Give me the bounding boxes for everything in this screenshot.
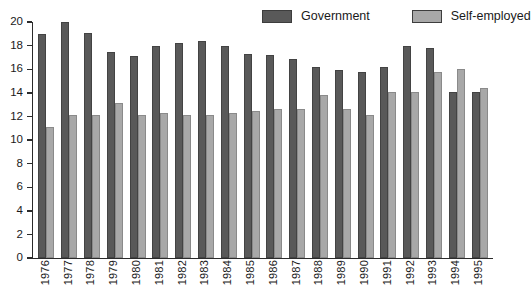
x-axis-tick: 1981 bbox=[148, 260, 171, 300]
bar-government bbox=[289, 59, 297, 258]
x-axis-tick: 1991 bbox=[376, 260, 399, 300]
bar-self-employed bbox=[480, 88, 488, 258]
bar-government bbox=[449, 92, 457, 258]
bar-self-employed bbox=[92, 115, 100, 258]
x-axis-tick-label: 1993 bbox=[427, 260, 438, 285]
x-axis-tick: 1984 bbox=[216, 260, 239, 300]
bar-government bbox=[403, 46, 411, 258]
bar-self-employed bbox=[206, 115, 214, 258]
y-axis-tick-label: 6 bbox=[17, 181, 27, 193]
x-axis-tick: 1987 bbox=[285, 260, 308, 300]
x-axis-tick-label: 1979 bbox=[108, 260, 119, 285]
x-axis: 1976197719781979198019811982198319841985… bbox=[32, 260, 492, 300]
bar-self-employed bbox=[411, 92, 419, 258]
y-axis: 02468101214161820 bbox=[0, 22, 32, 258]
y-axis-tick-label: 10 bbox=[10, 134, 27, 146]
legend-label-self-employed: Self-employed bbox=[451, 10, 531, 23]
y-axis-tick-label: 14 bbox=[10, 87, 27, 99]
x-axis-tick-label: 1992 bbox=[405, 260, 416, 285]
bar-government bbox=[244, 54, 252, 258]
bar-group bbox=[263, 22, 286, 258]
x-axis-tick-label: 1983 bbox=[199, 260, 210, 285]
bar-group bbox=[217, 22, 240, 258]
legend-label-government: Government bbox=[301, 10, 370, 23]
x-axis-tick: 1976 bbox=[34, 260, 57, 300]
bar-group bbox=[195, 22, 218, 258]
bar-self-employed bbox=[46, 127, 54, 258]
bar-government bbox=[61, 22, 69, 258]
bar-government bbox=[38, 34, 46, 258]
bar-group bbox=[423, 22, 446, 258]
x-axis-tick: 1993 bbox=[422, 260, 445, 300]
bar-government bbox=[84, 33, 92, 258]
x-axis-tick-label: 1995 bbox=[473, 260, 484, 285]
x-axis-tick-label: 1977 bbox=[63, 260, 74, 285]
x-axis-tick-label: 1985 bbox=[245, 260, 256, 285]
x-axis-tick-label: 1976 bbox=[40, 260, 51, 285]
legend-item-government: Government bbox=[262, 10, 370, 23]
bar-group bbox=[58, 22, 81, 258]
bar-government bbox=[266, 55, 274, 258]
bar-government bbox=[152, 46, 160, 258]
bar-government bbox=[107, 52, 115, 259]
bar-group bbox=[35, 22, 58, 258]
bar-group bbox=[286, 22, 309, 258]
bar-group bbox=[400, 22, 423, 258]
y-axis-tick-label: 4 bbox=[17, 205, 27, 217]
bar-government bbox=[198, 41, 206, 258]
bar-group bbox=[240, 22, 263, 258]
x-axis-tick-label: 1988 bbox=[313, 260, 324, 285]
bar-self-employed bbox=[343, 109, 351, 258]
x-axis-tick-label: 1987 bbox=[291, 260, 302, 285]
y-axis-tick-label: 2 bbox=[17, 228, 27, 240]
x-axis-tick: 1988 bbox=[308, 260, 331, 300]
bar-group bbox=[81, 22, 104, 258]
x-axis-tick-label: 1990 bbox=[359, 260, 370, 285]
x-axis-tick: 1978 bbox=[80, 260, 103, 300]
x-axis-tick-label: 1981 bbox=[154, 260, 165, 285]
bar-government bbox=[175, 43, 183, 258]
x-axis-tick: 1979 bbox=[102, 260, 125, 300]
y-axis-tick-label: 20 bbox=[10, 16, 27, 28]
x-axis-tick-label: 1982 bbox=[177, 260, 188, 285]
x-axis-tick-label: 1980 bbox=[131, 260, 142, 285]
x-axis-tick: 1977 bbox=[57, 260, 80, 300]
bar-group bbox=[445, 22, 468, 258]
bar-self-employed bbox=[229, 113, 237, 258]
bar-group bbox=[103, 22, 126, 258]
bar-self-employed bbox=[366, 115, 374, 258]
plot-area bbox=[32, 22, 493, 259]
bar-group bbox=[468, 22, 491, 258]
x-axis-tick: 1986 bbox=[262, 260, 285, 300]
x-axis-tick-label: 1994 bbox=[450, 260, 461, 285]
bar-self-employed bbox=[320, 95, 328, 258]
x-axis-tick: 1985 bbox=[239, 260, 262, 300]
bar-self-employed bbox=[457, 69, 465, 258]
x-axis-tick-label: 1978 bbox=[85, 260, 96, 285]
x-axis-tick: 1992 bbox=[399, 260, 422, 300]
bar-government bbox=[426, 48, 434, 258]
legend-item-self-employed: Self-employed bbox=[412, 10, 531, 23]
y-axis-tick-label: 0 bbox=[17, 252, 27, 264]
x-axis-tick-label: 1989 bbox=[336, 260, 347, 285]
bar-group bbox=[331, 22, 354, 258]
bar-government bbox=[312, 67, 320, 258]
x-axis-tick: 1980 bbox=[125, 260, 148, 300]
bar-self-employed bbox=[252, 111, 260, 259]
bar-self-employed bbox=[160, 113, 168, 258]
y-axis-tick-label: 8 bbox=[17, 157, 27, 169]
bar-self-employed bbox=[115, 103, 123, 258]
bar-group bbox=[354, 22, 377, 258]
bar-groups bbox=[33, 22, 493, 258]
x-axis-tick: 1989 bbox=[330, 260, 353, 300]
bar-government bbox=[472, 92, 480, 258]
bar-self-employed bbox=[69, 115, 77, 258]
x-axis-tick-label: 1991 bbox=[382, 260, 393, 285]
bar-self-employed bbox=[138, 115, 146, 258]
bar-self-employed bbox=[434, 72, 442, 258]
x-axis-tick: 1994 bbox=[444, 260, 467, 300]
bar-group bbox=[377, 22, 400, 258]
bar-government bbox=[221, 46, 229, 258]
x-axis-tick: 1982 bbox=[171, 260, 194, 300]
